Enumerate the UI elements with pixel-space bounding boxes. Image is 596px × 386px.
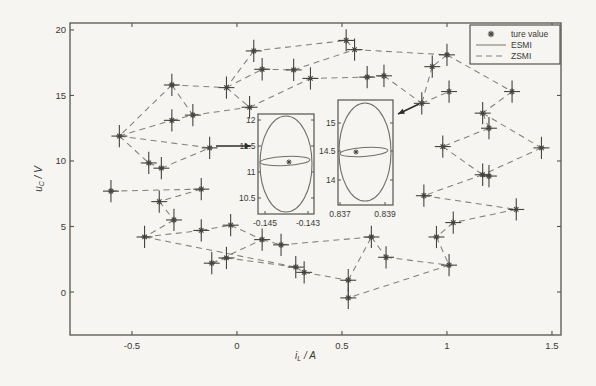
legend-label: ESMI bbox=[511, 40, 532, 50]
x-axis-tick-label: 0.5 bbox=[335, 340, 348, 351]
marker-dot bbox=[309, 77, 312, 80]
y-axis-tick-label: 0 bbox=[61, 287, 66, 298]
marker-dot bbox=[110, 190, 113, 193]
y-axis-tick-label: 10 bbox=[55, 155, 66, 166]
inset-y-tick-label: 15 bbox=[326, 118, 336, 128]
marker-dot bbox=[303, 271, 306, 274]
phase-portrait-chart: -0.500.511.5051015201211.51110.5-0.145-0… bbox=[0, 0, 596, 386]
true-value-marker bbox=[209, 260, 215, 266]
marker-dot bbox=[488, 127, 491, 130]
inset-box bbox=[258, 114, 314, 214]
marker-dot bbox=[515, 208, 518, 211]
inset-y-tick-label: 10.5 bbox=[239, 193, 256, 203]
marker-dot bbox=[452, 221, 455, 224]
marker-dot bbox=[490, 33, 493, 36]
marker-dot bbox=[511, 90, 514, 93]
true-value-marker bbox=[429, 63, 435, 69]
marker-dot bbox=[446, 54, 449, 57]
true-value-marker bbox=[246, 104, 252, 110]
true-value-marker bbox=[169, 82, 175, 88]
true-value-marker bbox=[513, 206, 519, 212]
true-value-marker bbox=[433, 234, 439, 240]
marker-dot bbox=[347, 297, 350, 300]
marker-dot bbox=[210, 262, 213, 265]
marker-dot bbox=[171, 84, 174, 87]
marker-dot bbox=[252, 50, 255, 53]
inset-y-tick-label: 14.5 bbox=[319, 146, 336, 156]
y-axis-tick-label: 20 bbox=[55, 24, 66, 35]
marker-dot bbox=[347, 279, 350, 282]
marker-dot bbox=[355, 151, 358, 154]
marker-dot bbox=[292, 69, 295, 72]
marker-dot bbox=[540, 147, 543, 150]
scanned-figure: -0.500.511.5051015201211.51110.5-0.145-0… bbox=[0, 0, 596, 386]
inset-y-tick-label: 14 bbox=[326, 175, 336, 185]
true-value-marker bbox=[444, 52, 450, 58]
marker-dot bbox=[420, 102, 423, 105]
true-value-marker bbox=[259, 236, 265, 242]
true-value-marker bbox=[141, 234, 147, 240]
marker-dot bbox=[200, 188, 203, 191]
inset-x-tick-label: -0.145 bbox=[253, 218, 277, 228]
marker-dot bbox=[423, 194, 426, 197]
marker-dot bbox=[385, 256, 388, 259]
marker-dot bbox=[171, 119, 174, 122]
y-axis-tick-label: 5 bbox=[61, 221, 66, 232]
true-value-marker bbox=[198, 186, 204, 192]
marker-dot bbox=[143, 236, 146, 239]
marker-dot bbox=[225, 257, 228, 260]
marker-dot bbox=[225, 86, 228, 89]
legend-label: ZSMI bbox=[511, 51, 531, 61]
true-value-marker bbox=[190, 112, 196, 118]
marker-dot bbox=[208, 147, 211, 150]
true-value-marker bbox=[381, 73, 387, 79]
marker-dot bbox=[118, 135, 121, 138]
inset-y-tick-label: 11 bbox=[247, 167, 256, 177]
inset-y-tick-label: 12 bbox=[246, 115, 256, 125]
inset-x-tick-label: 0.839 bbox=[374, 209, 396, 219]
x-axis-tick-label: -0.5 bbox=[124, 340, 140, 351]
true-value-marker bbox=[171, 217, 177, 223]
marker-dot bbox=[435, 236, 438, 239]
inset-true-value-marker bbox=[353, 149, 358, 154]
marker-dot bbox=[448, 90, 451, 93]
marker-dot bbox=[448, 264, 451, 267]
marker-dot bbox=[370, 236, 373, 239]
true-value-marker bbox=[538, 145, 544, 151]
true-value-marker bbox=[486, 125, 492, 131]
true-value-marker bbox=[116, 133, 122, 139]
true-value-marker bbox=[293, 264, 299, 270]
x-axis-tick-label: 0 bbox=[234, 340, 239, 351]
marker-dot bbox=[345, 39, 348, 42]
marker-dot bbox=[173, 219, 176, 222]
y-axis-label: uC / V bbox=[33, 165, 45, 192]
true-value-marker bbox=[446, 88, 452, 94]
true-value-marker bbox=[345, 295, 351, 301]
marker-dot bbox=[383, 75, 386, 78]
marker-dot bbox=[294, 266, 297, 269]
true-value-marker bbox=[158, 165, 164, 171]
inset-x-tick-label: 0.837 bbox=[329, 209, 351, 219]
true-value-marker bbox=[146, 160, 152, 166]
true-value-marker bbox=[290, 67, 296, 73]
marker-dot bbox=[158, 200, 161, 203]
marker-dot bbox=[280, 244, 283, 247]
true-value-marker bbox=[259, 66, 265, 72]
marker-dot bbox=[261, 68, 264, 71]
marker-dot bbox=[481, 112, 484, 115]
marker-dot bbox=[288, 161, 291, 164]
marker-dot bbox=[160, 167, 163, 170]
true-value-marker bbox=[486, 173, 492, 179]
x-axis-tick-label: 1.5 bbox=[545, 340, 558, 351]
marker-dot bbox=[192, 114, 195, 117]
marker-dot bbox=[353, 48, 356, 51]
marker-dot bbox=[261, 238, 264, 241]
marker-dot bbox=[488, 175, 491, 178]
marker-dot bbox=[366, 76, 369, 79]
true-value-marker bbox=[351, 46, 357, 52]
marker-dot bbox=[147, 162, 150, 165]
legend: ture valueESMIZSMI bbox=[470, 25, 560, 64]
inset-true-value-marker bbox=[286, 159, 291, 164]
marker-dot bbox=[248, 106, 251, 109]
x-axis-tick-label: 1 bbox=[444, 340, 449, 351]
